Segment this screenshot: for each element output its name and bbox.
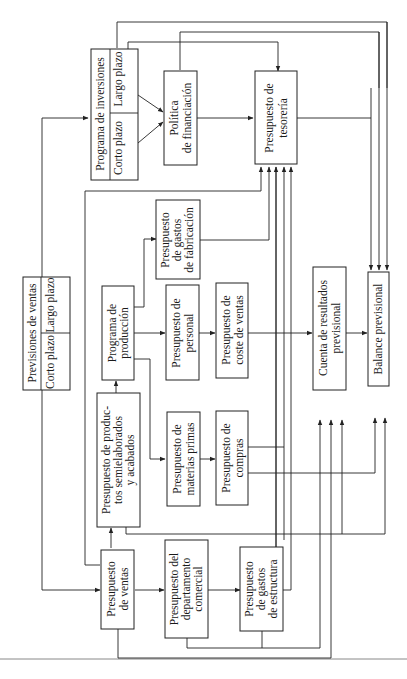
svg-text:Largo plazo: Largo plazo — [44, 277, 57, 332]
node-presupuesto-materias-primas: Presupuesto de materias primas — [167, 412, 200, 506]
svg-text:comercial: comercial — [192, 566, 204, 611]
node-previsiones-ventas: Previsiones de ventas Largo plazo Corto … — [23, 277, 70, 390]
svg-text:Presupuesto de: Presupuesto de — [220, 423, 233, 492]
svg-text:Corto plazo: Corto plazo — [112, 121, 125, 175]
svg-text:Presupuesto de: Presupuesto de — [170, 298, 183, 367]
node-presupuesto-ventas: Presupuesto de ventas — [101, 550, 134, 629]
budget-flow-diagram: Programa de inversiones Largo plazo Cort… — [0, 0, 407, 679]
svg-text:Previsiones de ventas: Previsiones de ventas — [26, 283, 38, 383]
label: Programa de inversiones — [94, 57, 107, 171]
svg-text:y acabados: y acabados — [124, 434, 137, 485]
svg-text:coste de ventas: coste de ventas — [233, 295, 245, 365]
node-presupuesto-gastos-fabricacion: Presupuesto de gastos de fabricación — [156, 200, 200, 279]
svg-text:de fabricación: de fabricación — [183, 207, 195, 273]
node-presupuesto-gastos-estructura: Presupuesto de gastos de estructura — [240, 547, 283, 631]
svg-text:Cuenta de resultados: Cuenta de resultados — [317, 280, 329, 376]
node-presupuesto-tesoreria: Presupuesto de tesorería — [255, 71, 297, 164]
svg-text:materias primas: materias primas — [184, 422, 197, 496]
svg-text:tos semielaborados: tos semielaborados — [112, 416, 124, 504]
svg-text:Presupuesto de: Presupuesto de — [263, 83, 276, 152]
svg-text:Balance previsional: Balance previsional — [372, 283, 385, 374]
node-presupuesto-personal: Presupuesto de personal — [166, 285, 199, 380]
svg-text:de ventas: de ventas — [118, 567, 130, 611]
svg-text:Presupuesto de: Presupuesto de — [220, 295, 233, 364]
svg-text:de financiación: de financiación — [181, 82, 193, 153]
node-presupuesto-compras: Presupuesto de compras — [216, 411, 248, 505]
node-presupuesto-productos: Presupuesto de produc- tos semielaborado… — [97, 393, 140, 527]
svg-text:Política: Política — [168, 100, 180, 135]
node-presupuesto-coste-ventas: Presupuesto de coste de ventas — [216, 283, 248, 378]
svg-text:producción: producción — [118, 307, 131, 359]
node-balance-previsional: Balance previsional — [368, 272, 389, 386]
svg-text:tesorería: tesorería — [277, 98, 289, 138]
svg-text:de estructura: de estructura — [267, 559, 279, 618]
svg-text:Largo plazo: Largo plazo — [112, 51, 125, 106]
node-politica-financiacion: Política de financiación — [164, 71, 197, 165]
node-programa-inversiones: Programa de inversiones Largo plazo Cort… — [91, 49, 138, 180]
svg-text:previsional: previsional — [330, 302, 343, 353]
svg-text:compras: compras — [233, 438, 246, 477]
svg-text:personal: personal — [183, 314, 196, 353]
svg-text:Corto plazo: Corto plazo — [44, 335, 57, 389]
node-presupuesto-departamento-comercial: Presupuesto del departamento comercial — [165, 540, 208, 638]
svg-text:Presupuesto de: Presupuesto de — [171, 424, 184, 493]
node-programa-produccion: Programa de producción — [102, 286, 134, 380]
svg-text:Presupuesto: Presupuesto — [105, 561, 118, 617]
node-cuenta-resultados: Cuenta de resultados previsional — [313, 267, 346, 390]
